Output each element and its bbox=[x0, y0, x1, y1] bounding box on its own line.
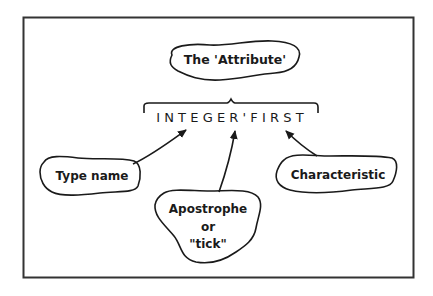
attribute-label: The 'Attribute' bbox=[183, 54, 287, 67]
apostrophe-label-line2: or bbox=[166, 221, 250, 233]
type-name-label: Type name bbox=[52, 170, 132, 182]
characteristic-arrow bbox=[286, 131, 317, 156]
apostrophe-label-line1: Apostrophe bbox=[166, 203, 250, 215]
diagram-svg bbox=[0, 0, 433, 296]
diagram-canvas: The 'Attribute' INTEGER'FIRST Type name … bbox=[0, 0, 433, 296]
expression-text: INTEGER'FIRST bbox=[152, 111, 312, 124]
apostrophe-arrow bbox=[219, 131, 235, 192]
apostrophe-label-line3: "tick" bbox=[166, 238, 250, 250]
characteristic-label: Characteristic bbox=[286, 169, 390, 181]
type-name-arrow bbox=[133, 130, 186, 164]
